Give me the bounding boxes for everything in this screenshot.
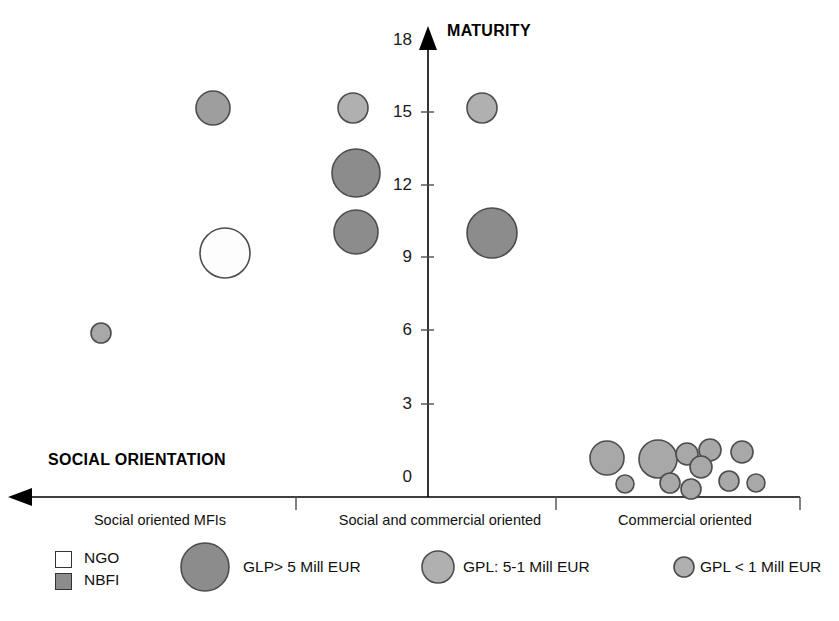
data-bubble <box>334 210 378 254</box>
data-bubble <box>690 456 712 478</box>
legend-bubble-medium <box>422 551 454 583</box>
data-bubble <box>467 208 517 258</box>
category-label-commercial-oriented: Commercial oriented <box>590 512 780 528</box>
legend-bubble-small <box>674 557 694 577</box>
legend-bubble-large <box>181 543 229 591</box>
data-bubble <box>196 91 230 125</box>
data-bubble <box>332 149 380 197</box>
legend-swatch-nbfi <box>55 573 72 590</box>
data-bubble <box>681 479 701 499</box>
legend-label-glp-large: GLP> 5 Mill EUR <box>243 558 361 576</box>
y-axis-arrowhead-icon <box>419 26 437 50</box>
data-bubble <box>338 93 368 123</box>
data-bubble <box>731 441 753 463</box>
y-tick-label-18: 18 <box>378 30 412 50</box>
y-tick-label-9: 9 <box>378 247 412 267</box>
x-axis-category-dividers <box>296 497 800 510</box>
y-tick-label-0: 0 <box>378 467 412 487</box>
legend-label-gpl-small: GPL < 1 Mill EUR <box>700 558 821 576</box>
x-axis-arrowhead-icon <box>8 488 32 506</box>
data-bubble <box>467 93 497 123</box>
category-label-social-oriented-mfis: Social oriented MFIs <box>60 512 260 528</box>
data-bubble <box>200 228 250 278</box>
x-axis-title: SOCIAL ORIENTATION <box>48 451 226 469</box>
data-bubble <box>590 441 624 475</box>
legend-swatch-ngo <box>55 551 72 568</box>
y-tick-label-6: 6 <box>378 320 412 340</box>
y-tick-label-12: 12 <box>378 175 412 195</box>
data-bubble <box>616 475 634 493</box>
data-bubble <box>747 474 765 492</box>
y-axis-title: MATURITY <box>447 22 531 40</box>
category-label-social-and-commercial-oriented: Social and commercial oriented <box>320 512 560 528</box>
y-tick-label-3: 3 <box>378 394 412 414</box>
data-bubble <box>660 473 680 493</box>
legend-label-nbfi: NBFI <box>84 571 119 589</box>
data-bubble <box>719 471 739 491</box>
legend-label-ngo: NGO <box>84 549 119 567</box>
chart-root: 18 15 12 9 6 3 0 MATURITY SOCIAL ORIENTA… <box>0 0 839 621</box>
y-tick-label-15: 15 <box>378 102 412 122</box>
legend-label-gpl-medium: GPL: 5-1 Mill EUR <box>463 558 590 576</box>
data-bubble <box>91 323 111 343</box>
